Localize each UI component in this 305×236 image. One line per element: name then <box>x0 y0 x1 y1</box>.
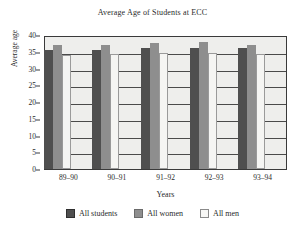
x-tick-label: 91–92 <box>156 173 175 182</box>
y-tick-mark <box>36 119 40 120</box>
y-tick-mark <box>36 153 40 154</box>
bar-group <box>141 37 168 169</box>
y-axis-ticklabels: 0510152025303540 <box>14 36 40 170</box>
bar <box>159 53 168 169</box>
chart-title: Average Age of Students at ECC <box>0 8 305 17</box>
y-tick-mark <box>36 136 40 137</box>
legend-label: All women <box>147 209 183 218</box>
bar <box>150 43 159 169</box>
legend-swatch-icon <box>134 209 143 218</box>
y-tick-mark <box>36 86 40 87</box>
y-tick-mark <box>36 103 40 104</box>
legend-swatch-icon <box>200 209 209 218</box>
bar <box>238 48 247 169</box>
bar <box>141 48 150 169</box>
legend-label: All students <box>79 209 117 218</box>
legend-item[interactable]: All women <box>134 209 183 218</box>
bar <box>190 48 199 169</box>
legend-label: All men <box>213 209 239 218</box>
bar <box>256 54 265 169</box>
bar <box>62 55 71 169</box>
bar-group <box>44 37 71 169</box>
legend-item[interactable]: All students <box>66 209 117 218</box>
y-tick-label: 30 <box>29 66 37 74</box>
y-tick-mark <box>36 52 40 53</box>
bar <box>92 50 101 169</box>
x-axis-title: Years <box>44 190 287 199</box>
bar-group <box>190 37 217 169</box>
bar <box>53 45 62 169</box>
x-tick-label: 93–94 <box>253 173 272 182</box>
y-tick-mark <box>36 36 40 37</box>
bar <box>101 45 110 169</box>
y-tick-mark <box>36 69 40 70</box>
plot-area <box>44 36 287 170</box>
bar-group <box>238 37 265 169</box>
y-tick-label: 35 <box>29 49 37 57</box>
x-tick-label: 89–90 <box>59 173 78 182</box>
x-tick-label: 92–93 <box>205 173 224 182</box>
chart-legend: All studentsAll womenAll men <box>0 209 305 218</box>
bar <box>110 54 119 169</box>
y-tick-label: 25 <box>29 83 37 91</box>
legend-swatch-icon <box>66 209 75 218</box>
legend-item[interactable]: All men <box>200 209 239 218</box>
bar-group <box>92 37 119 169</box>
chart-figure: Average Age of Students at ECC Average a… <box>0 0 305 236</box>
y-tick-label: 10 <box>29 133 37 141</box>
y-tick-mark <box>36 170 40 171</box>
bar <box>44 50 53 169</box>
x-tick-label: 90–91 <box>108 173 127 182</box>
y-tick-label: 40 <box>29 32 37 40</box>
y-tick-label: 20 <box>29 99 37 107</box>
bar <box>199 42 208 169</box>
bar <box>247 45 256 169</box>
x-axis-ticklabels: 89–9090–9191–9292–9393–94 <box>44 173 287 185</box>
bar <box>208 53 217 169</box>
y-tick-label: 15 <box>29 116 37 124</box>
bars-layer <box>45 37 286 169</box>
